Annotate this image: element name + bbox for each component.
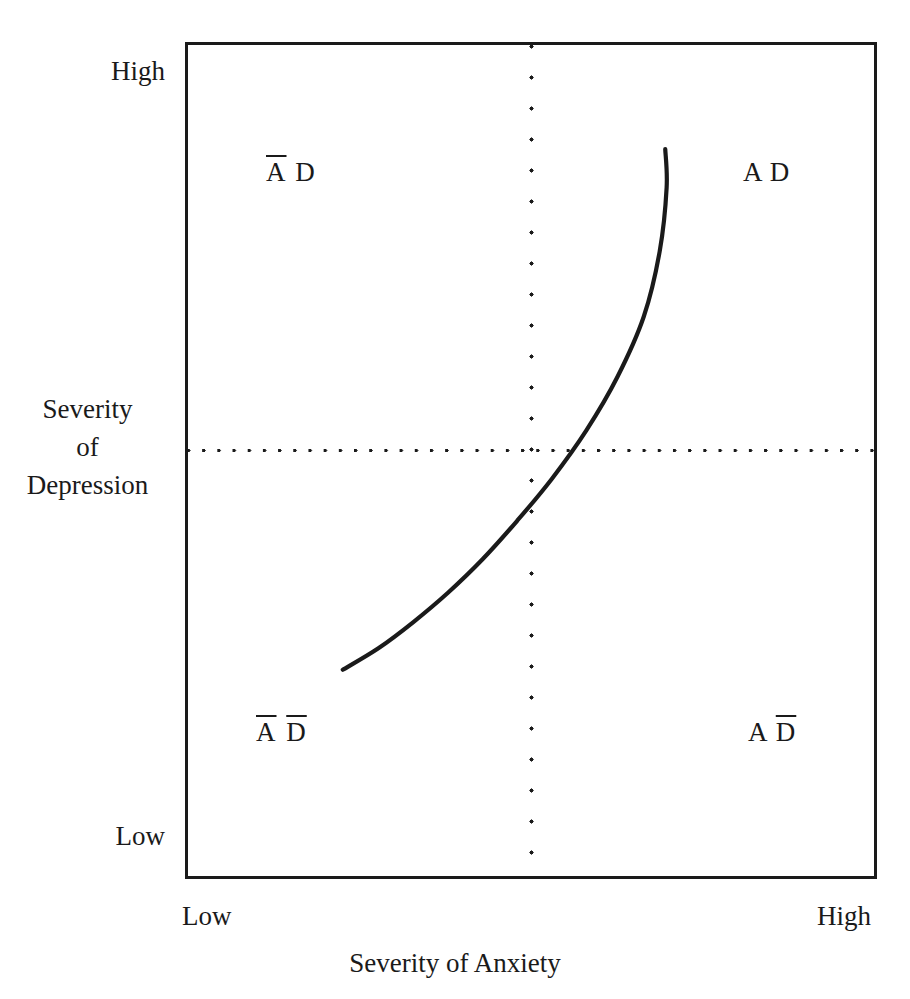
quadrant-label-bottom-right: A D — [748, 717, 797, 747]
quadrant-br-anxiety: A — [748, 717, 767, 747]
anxiety-depression-quadrant-figure: High Severity of Depression Low Low High… — [0, 0, 910, 999]
quadrant-label-top-right: A D — [743, 157, 790, 187]
y-axis-high-label: High — [111, 52, 165, 90]
vertical-reference-line-dotted — [529, 44, 534, 878]
quadrant-tr-anxiety: A — [743, 157, 762, 187]
quadrant-label-bottom-left: A D — [255, 717, 308, 747]
quadrant-tr-depression: D — [770, 157, 791, 187]
horizontal-reference-line-dotted — [186, 448, 876, 453]
y-axis-title: Severity of Depression — [0, 390, 175, 504]
quadrant-tl-anxiety: A — [265, 157, 288, 187]
y-axis-title-line-1: Severity — [0, 390, 175, 428]
y-axis-low-label: Low — [116, 817, 166, 855]
quadrant-label-top-left: A D — [265, 157, 316, 187]
quadrant-bl-anxiety: A — [255, 717, 278, 747]
x-axis-title: Severity of Anxiety — [0, 944, 910, 982]
quadrant-tl-depression: D — [295, 157, 316, 187]
quadrant-bl-depression: D — [285, 717, 308, 747]
y-axis-title-line-2: of — [0, 428, 175, 466]
y-axis-title-line-3: Depression — [0, 466, 175, 504]
x-axis-high-label: High — [817, 897, 871, 935]
quadrant-br-depression: D — [775, 717, 798, 747]
x-axis-low-label: Low — [182, 897, 232, 935]
